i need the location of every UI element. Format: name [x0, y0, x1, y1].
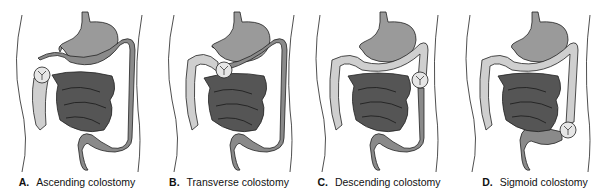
panel-sigmoid-colostomy: D.Sigmoid colostomy — [458, 0, 612, 195]
caption-transverse: B.Transverse colostomy — [152, 176, 306, 188]
panel-label: Ascending colostomy — [36, 176, 135, 188]
descending-colostomy-illustration — [302, 0, 456, 175]
panel-letter: B. — [169, 176, 180, 188]
caption-ascending: A.Ascending colostomy — [0, 176, 154, 188]
panel-label: Transverse colostomy — [187, 176, 289, 188]
panel-label: Sigmoid colostomy — [500, 176, 588, 188]
panel-label: Descending colostomy — [335, 176, 441, 188]
panel-letter: D. — [482, 176, 493, 188]
panel-transverse-colostomy: B.Transverse colostomy — [152, 0, 306, 195]
panel-descending-colostomy: C.Descending colostomy — [302, 0, 456, 195]
panel-letter: A. — [19, 176, 30, 188]
colostomy-figure: A.Ascending colostomy B.Transverse colos… — [0, 0, 615, 195]
panel-letter: C. — [317, 176, 328, 188]
ascending-colostomy-illustration — [0, 0, 154, 175]
caption-descending: C.Descending colostomy — [302, 176, 456, 188]
caption-sigmoid: D.Sigmoid colostomy — [458, 176, 612, 188]
panel-ascending-colostomy: A.Ascending colostomy — [0, 0, 154, 195]
sigmoid-colostomy-illustration — [458, 0, 612, 175]
transverse-colostomy-illustration — [152, 0, 306, 175]
